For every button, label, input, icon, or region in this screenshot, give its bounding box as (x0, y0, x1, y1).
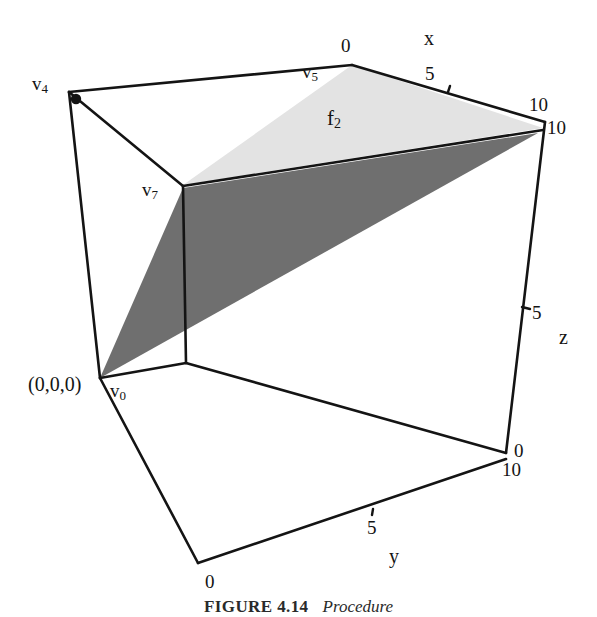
figure-caption-label: FIGURE 4.14 (204, 597, 309, 616)
face-label-f2: f2 (327, 108, 341, 131)
vertex-label-v7: v7 (142, 180, 158, 201)
tick-label-x-10: 10 (529, 95, 548, 114)
axis-label-x: x (424, 28, 434, 48)
cube-diagram (0, 0, 597, 617)
tick-x-5 (448, 86, 450, 92)
tick-label-z-0: 0 (514, 441, 524, 460)
tick-y-5 (372, 509, 373, 515)
face-label-f2-base: f (327, 106, 334, 130)
tick-label-z-10: 10 (547, 118, 566, 137)
axis-label-z: z (559, 327, 568, 347)
vertex-label-v4-base: v (32, 73, 42, 94)
tick-label-y-0: 0 (205, 572, 215, 591)
face-dark (100, 133, 538, 378)
vertex-label-v7-sub: 7 (152, 187, 159, 202)
face-label-f2-sub: 2 (334, 116, 341, 131)
vertex-label-v4-sub: 4 (42, 81, 49, 96)
edge-bottomfront-bottomright (198, 459, 506, 563)
origin-label: (0,0,0) (28, 374, 81, 394)
tick-label-x-0: 0 (341, 36, 351, 55)
vertex-label-v5-sub: 5 (312, 69, 319, 84)
vertex-label-v7-base: v (142, 179, 152, 200)
tick-label-y-5: 5 (367, 518, 377, 537)
figure-container: v4 v5 v7 v0 (0,0,0) f2 0 5 10 x 10 5 0 z… (0, 0, 597, 617)
vertex-label-v0: v0 (110, 381, 126, 402)
vertex-label-v0-base: v (110, 380, 120, 401)
edge-v4-v7 (69, 92, 183, 186)
tick-label-x-5: 5 (425, 64, 435, 83)
edge-right-vertical (506, 122, 545, 453)
vertex-label-v5: v5 (302, 62, 318, 83)
tick-label-z-5: 5 (532, 303, 542, 322)
figure-caption: FIGURE 4.14Procedure (0, 597, 597, 617)
edge-bottominterior-bottomright (186, 363, 506, 453)
tick-label-y-10: 10 (502, 460, 521, 479)
figure-caption-text: Procedure (323, 597, 394, 616)
axis-label-y: y (389, 546, 399, 566)
edge-v0-bottomfront (100, 378, 198, 563)
edge-v4-v0 (69, 92, 100, 378)
vertex-label-v0-sub: 0 (120, 388, 127, 403)
vertex-dot-v4 (71, 94, 81, 104)
vertex-label-v5-base: v (302, 61, 312, 82)
vertex-label-v4: v4 (32, 74, 48, 95)
